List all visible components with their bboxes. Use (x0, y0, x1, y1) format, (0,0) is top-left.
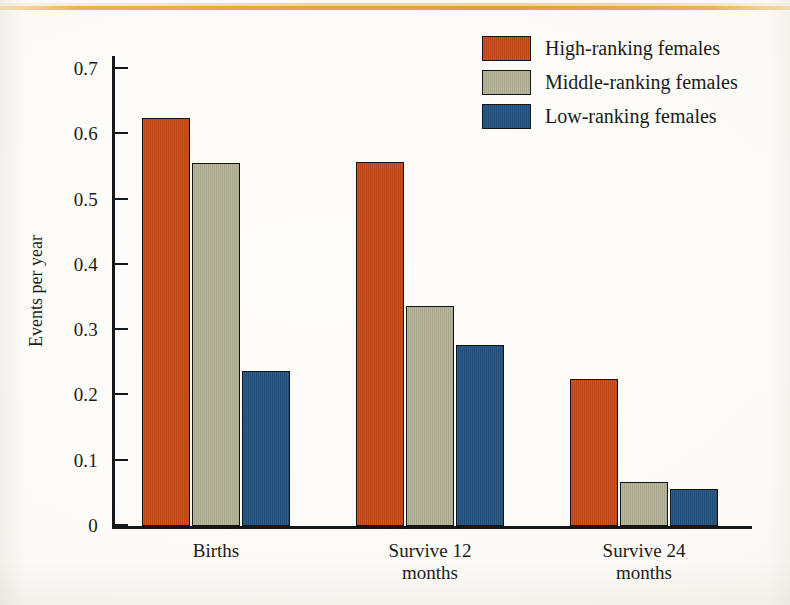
y-axis-tick-label: 0.5 (74, 189, 98, 211)
legend-item: Low-ranking females (482, 104, 738, 129)
bar (620, 482, 668, 526)
x-axis-category-label: Survive 24 months (603, 540, 686, 585)
bar (242, 371, 290, 526)
y-axis-tick (115, 459, 128, 461)
y-axis-tick (115, 524, 128, 526)
legend-swatch (482, 70, 531, 95)
legend-swatch (482, 36, 531, 61)
bar (456, 345, 504, 526)
y-axis-tick-label: 0.3 (74, 319, 98, 341)
y-axis-tick-label: 0.1 (74, 450, 98, 472)
legend-label: Middle-ranking females (545, 71, 738, 94)
legend-item: High-ranking females (482, 36, 738, 61)
x-axis-category-label: Births (193, 540, 239, 562)
y-axis-tick (115, 198, 128, 200)
bar (670, 489, 718, 526)
chart-legend: High-ranking femalesMiddle-ranking femal… (482, 36, 738, 129)
y-axis-tick (115, 67, 128, 69)
bar (570, 379, 618, 526)
legend-label: High-ranking females (545, 37, 720, 60)
y-axis-tick (115, 393, 128, 395)
bar (356, 162, 404, 526)
x-axis-line (112, 526, 752, 529)
legend-swatch (482, 104, 531, 129)
y-axis-tick-label: 0.6 (74, 123, 98, 145)
y-axis-tick-label: 0.4 (74, 254, 98, 276)
bar (406, 306, 454, 526)
bar (142, 118, 190, 526)
figure-canvas: 00.10.20.30.40.50.60.7 BirthsSurvive 12 … (0, 0, 790, 605)
y-axis-tick (115, 263, 128, 265)
top-rule (0, 6, 790, 10)
y-axis-tick (115, 328, 128, 330)
y-axis-title: Events per year (26, 235, 47, 347)
bar (192, 163, 240, 526)
y-axis-tick-label: 0 (88, 515, 98, 537)
legend-label: Low-ranking females (545, 105, 717, 128)
y-axis-tick (115, 132, 128, 134)
y-axis-tick-label: 0.7 (74, 58, 98, 80)
x-axis-category-label: Survive 12 months (389, 540, 472, 585)
y-axis-line (112, 56, 115, 526)
y-axis-tick-label: 0.2 (74, 384, 98, 406)
legend-item: Middle-ranking females (482, 70, 738, 95)
